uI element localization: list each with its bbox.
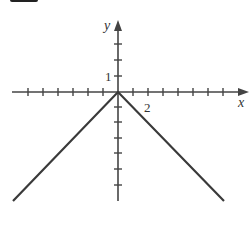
y-axis-arrow-icon: [114, 20, 122, 31]
x-axis: [12, 88, 249, 96]
x-axis-label: x: [237, 95, 245, 110]
x-tick-label-2: 2: [144, 100, 151, 115]
graph-figure: y x 1 2: [0, 0, 249, 247]
y-axis-label: y: [102, 18, 111, 33]
y-tick-label-1: 1: [105, 69, 112, 84]
y-axis: [114, 20, 122, 201]
